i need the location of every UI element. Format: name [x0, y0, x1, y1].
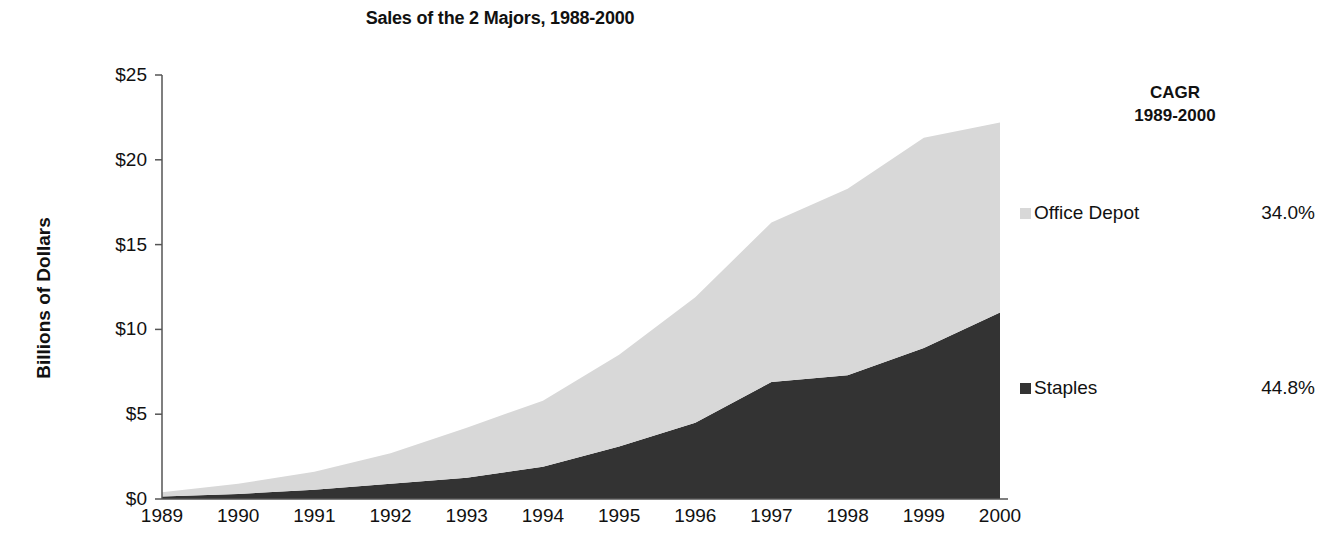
y-tick-label: $5	[67, 403, 147, 425]
y-tick-label: $25	[67, 64, 147, 86]
legend-label-staples: Staples	[1034, 377, 1097, 399]
cagr-header-line1: CAGR	[1040, 82, 1310, 105]
area-series-group	[162, 122, 1000, 499]
legend-item-staples[interactable]: Staples 44.8%	[1020, 375, 1315, 401]
y-tick-label: $20	[67, 149, 147, 171]
cagr-header-line2: 1989-2000	[1040, 105, 1310, 128]
legend-swatch-staples-icon	[1020, 383, 1031, 394]
y-tick-label: $15	[67, 234, 147, 256]
legend-item-office-depot[interactable]: Office Depot 34.0%	[1020, 200, 1315, 226]
legend-swatch-office-depot-icon	[1020, 208, 1031, 219]
legend-label-office-depot: Office Depot	[1034, 202, 1139, 224]
y-tick-label: $10	[67, 318, 147, 340]
y-axis-title: Billions of Dollars	[33, 188, 55, 408]
x-tick-label: 2000	[955, 505, 1045, 527]
legend-cagr-office-depot: 34.0%	[1261, 202, 1315, 224]
legend-cagr-staples: 44.8%	[1261, 377, 1315, 399]
cagr-header: CAGR 1989-2000	[1040, 82, 1310, 128]
chart-container: Sales of the 2 Majors, 1988-2000 Billion…	[0, 0, 1330, 541]
